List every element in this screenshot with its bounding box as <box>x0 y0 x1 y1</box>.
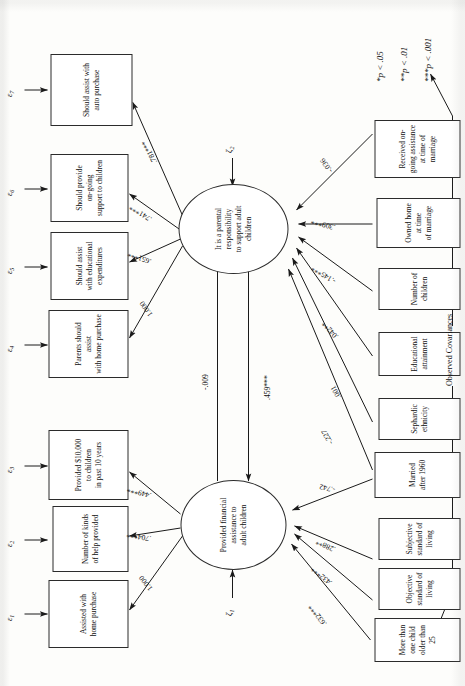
footnote-p05: *p < .05 <box>374 51 384 82</box>
latent-variable-eta2: It is a parentalresponsibilityto support… <box>178 184 288 274</box>
indicator-box-y3: Provided $10,000to childrenin past 10 ye… <box>48 430 128 500</box>
error-term-e7: ε7 <box>4 91 15 97</box>
exogenous-box-x8: Owned home at timeof marriage <box>376 198 460 248</box>
exogenous-box-x4: Married after 1960 <box>374 452 460 498</box>
exogenous-box-x7: Number of children <box>378 268 460 310</box>
indicator-box-y7: Should assist withauto purchase <box>50 54 132 126</box>
structural-path-label-eta1-eta2: -.009 <box>200 374 209 390</box>
error-term-e6: ε6 <box>4 190 15 196</box>
indicator-box-y6: Should provideon-goingsupport to childre… <box>50 154 128 222</box>
indicator-box-y4: Parents should assistwith home purchase <box>48 310 128 378</box>
error-term-e3: ε3 <box>4 467 15 473</box>
footnote-p001: ***p < .001 <box>422 38 432 82</box>
indicator-box-y5: Should assistwith educationalexpenditure… <box>50 232 128 300</box>
latent-variable-eta1: Provided financialassistance toadult chi… <box>180 480 286 570</box>
scanned-figure-page: ε1 ε2 ε3 ε4 ε5 ε6 ε7 ζ1 ζ2 Assisted with… <box>0 0 465 686</box>
error-term-e2: ε2 <box>4 541 15 547</box>
footnote-p01: **p < .01 <box>398 47 408 82</box>
error-term-e1: ε1 <box>4 615 15 621</box>
disturbance-term-z2: ζ2 <box>224 147 235 153</box>
observed-covariances-label: Observed Covariances <box>444 314 453 386</box>
error-term-e5: ε5 <box>4 268 15 274</box>
indicator-box-y2: Number of kindsof help provided <box>52 506 128 572</box>
exogenous-box-x1: More than one child older than 25 <box>374 618 460 662</box>
exogenous-box-x3: Subjective standard of living <box>378 518 460 560</box>
error-term-e4: ε4 <box>4 346 15 352</box>
exogenous-box-x9: Received on-going assistanceat time of m… <box>374 120 460 178</box>
sem-diagram: ε1 ε2 ε3 ε4 ε5 ε6 ε7 ζ1 ζ2 Assisted with… <box>0 0 465 686</box>
exogenous-box-x2: Objective standard of living <box>378 568 460 610</box>
structural-path-label-eta2-eta1: .459*** <box>262 375 271 400</box>
disturbance-term-z1: ζ1 <box>224 610 235 616</box>
exogenous-box-x5: Sephardic ethnicity <box>378 398 460 440</box>
indicator-box-y1: Assisted withhome purchase <box>48 580 128 648</box>
